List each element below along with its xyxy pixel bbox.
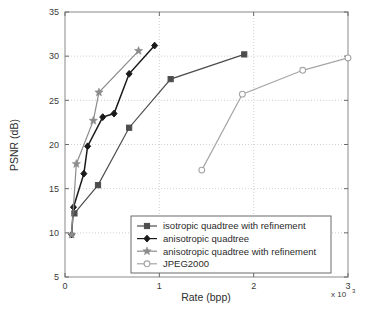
x-axis-tick-label: 3	[345, 281, 350, 291]
data-point-marker	[144, 223, 149, 228]
x-axis-tick-label: 0	[62, 281, 67, 291]
x-axis-exponent-power: 3	[352, 288, 356, 294]
data-point-marker	[127, 125, 132, 130]
psnr-vs-rate-chart: 51015202530350123Rate (bpp)PSNR (dB)x 10…	[0, 0, 372, 315]
y-axis-tick-label: 30	[49, 51, 59, 61]
y-axis-tick-label: 25	[49, 96, 59, 106]
x-axis-tick-label: 1	[157, 281, 162, 291]
data-point-marker	[239, 91, 245, 97]
y-axis-tick-label: 10	[49, 228, 59, 238]
y-axis-tick-label: 15	[49, 184, 59, 194]
x-axis-tick-label: 2	[251, 281, 256, 291]
y-axis-tick-label: 20	[49, 140, 59, 150]
legend-label: anisotropic quadtree	[163, 233, 249, 244]
x-axis-title: Rate (bpp)	[181, 291, 231, 303]
data-point-marker	[345, 55, 351, 61]
legend-item[interactable]: isotropic quadtree with refinement	[137, 220, 306, 231]
chart-figure: 51015202530350123Rate (bpp)PSNR (dB)x 10…	[0, 0, 372, 315]
data-point-marker	[199, 167, 205, 173]
legend-label: JPEG2000	[163, 258, 209, 269]
legend-item[interactable]: anisotropic quadtree with refinement	[137, 246, 317, 257]
legend-label: isotropic quadtree with refinement	[163, 220, 306, 231]
data-point-marker	[168, 77, 173, 82]
data-point-marker	[95, 183, 100, 188]
x-axis-exponent: x 10	[331, 290, 347, 299]
data-point-marker	[242, 52, 247, 57]
y-axis-tick-label: 35	[49, 7, 59, 17]
y-axis-tick-label: 5	[54, 272, 59, 282]
data-point-marker	[144, 261, 150, 267]
legend-label: anisotropic quadtree with refinement	[163, 246, 317, 257]
y-axis-title: PSNR (dB)	[8, 119, 20, 171]
data-point-marker	[300, 67, 306, 73]
